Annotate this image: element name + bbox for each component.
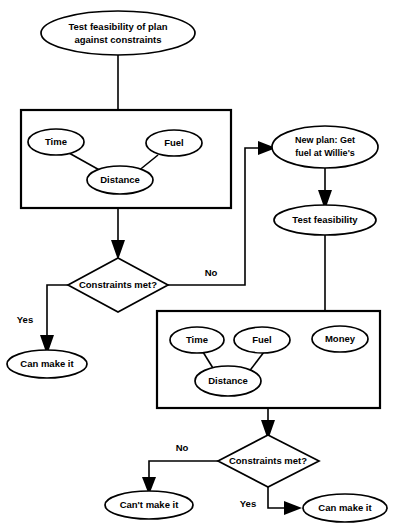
node-money-2-label: Money	[325, 333, 356, 344]
node-fuel-1-label: Fuel	[164, 137, 184, 148]
arrowhead-to-decision1	[111, 240, 125, 260]
node-new-plan-label-line1: New plan: Get	[295, 135, 355, 145]
flowchart-canvas: Time Fuel Distance Time Fuel Money Dista…	[0, 0, 395, 529]
edge-label-decision1-no: No	[205, 267, 218, 278]
node-time-2-label: Time	[186, 334, 208, 345]
node-test-feasibility-of-plan-label-line2: against constraints	[74, 34, 161, 45]
node-time-1-label: Time	[45, 136, 67, 147]
connector-decision2-no-to-cantmakeit	[149, 461, 218, 490]
arrowhead-to-canmakeit-2	[284, 501, 302, 515]
node-distance-1-label: Distance	[100, 174, 140, 185]
decision-constraints-met-2-label: Constraints met?	[229, 455, 307, 466]
node-new-plan	[272, 126, 378, 168]
node-cant-make-it-label: Can't make it	[120, 499, 180, 510]
node-fuel-2-label: Fuel	[252, 334, 272, 345]
edge-label-decision1-yes: Yes	[17, 314, 33, 325]
node-can-make-it-1-label: Can make it	[20, 358, 74, 369]
edge-label-decision2-no: No	[176, 442, 189, 453]
node-test-feasibility-label: Test feasibility	[292, 214, 358, 225]
node-distance-2-label: Distance	[208, 375, 248, 386]
node-test-feasibility-of-plan-label-line1: Test feasibility of plan	[68, 21, 167, 32]
decision-constraints-met-1-label: Constraints met?	[79, 279, 157, 290]
flowchart-svg: Time Fuel Distance Time Fuel Money Dista…	[0, 0, 395, 529]
node-can-make-it-2-label: Can make it	[318, 502, 372, 513]
edge-label-decision2-yes: Yes	[240, 498, 256, 509]
node-new-plan-label-line2: fuel at Willie's	[295, 148, 355, 158]
